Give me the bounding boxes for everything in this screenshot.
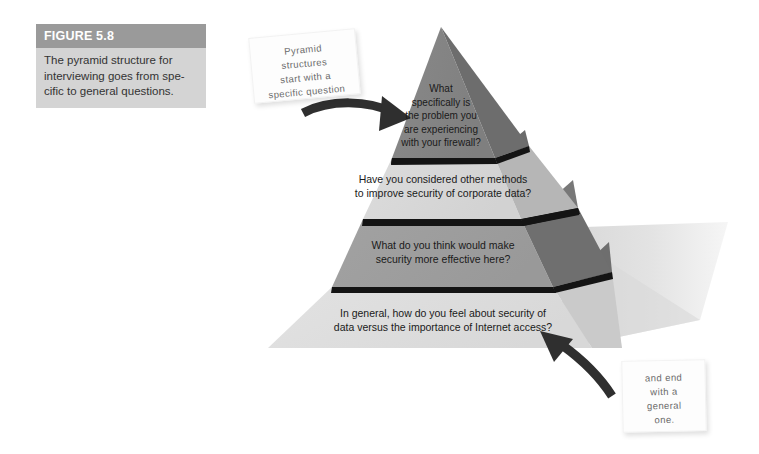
arrow-to-top-tier bbox=[303, 96, 411, 131]
annotation-note-bottom: and end with a general one. bbox=[621, 359, 706, 433]
pyramid-tier-3[interactable] bbox=[332, 208, 613, 293]
annotation-note-top: Pyramid structures start with a specific… bbox=[248, 28, 361, 103]
figure-canvas: FIGURE 5.8 The pyramid structure for int… bbox=[0, 0, 759, 454]
pyramid-tier-1[interactable] bbox=[391, 27, 530, 165]
